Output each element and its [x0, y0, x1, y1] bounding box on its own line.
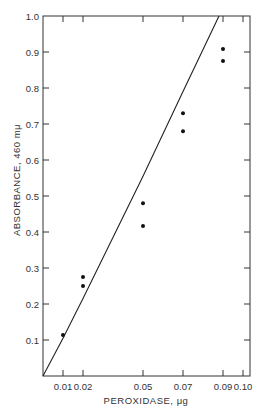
y-axis-label: ABSORBANCE, 460 mμ [11, 124, 22, 236]
y-tick-label: 0.5 [26, 191, 39, 202]
x-axis-label: PEROXIDASE, μg [104, 395, 189, 406]
fit-line [43, 16, 219, 376]
x-tick-label: 0.07 [174, 381, 193, 392]
data-point [61, 333, 65, 337]
x-tick-label: 0.10 [234, 381, 253, 392]
y-tick-label: 0.8 [26, 83, 39, 94]
data-series [43, 16, 225, 376]
data-point [181, 111, 185, 115]
data-point [141, 201, 145, 205]
y-tick-label: 0.4 [26, 227, 39, 238]
data-point [81, 275, 85, 279]
y-tick-label: 0.2 [26, 299, 39, 310]
x-tick-label: 0.05 [134, 381, 153, 392]
y-tick-label: 0.9 [26, 47, 39, 58]
data-point [181, 129, 185, 133]
data-point [81, 284, 85, 288]
data-point [141, 224, 145, 228]
x-axis-ticks: 0.010.020.050.070.090.10 [54, 16, 253, 392]
y-tick-label: 0.3 [26, 263, 39, 274]
plot-border [43, 16, 250, 376]
absorbance-vs-peroxidase-chart: 0.10.20.30.40.50.60.70.80.91.0 0.010.020… [0, 0, 264, 414]
y-tick-label: 0.1 [26, 335, 39, 346]
y-tick-label: 0.7 [26, 119, 39, 130]
x-tick-label: 0.02 [74, 381, 93, 392]
data-point [221, 59, 225, 63]
data-point [221, 47, 225, 51]
y-tick-label: 1.0 [26, 11, 39, 22]
x-tick-label: 0.09 [214, 381, 233, 392]
x-tick-label: 0.01 [54, 381, 73, 392]
y-axis-ticks: 0.10.20.30.40.50.60.70.80.91.0 [26, 11, 250, 346]
y-tick-label: 0.6 [26, 155, 39, 166]
plot-frame [43, 16, 250, 376]
